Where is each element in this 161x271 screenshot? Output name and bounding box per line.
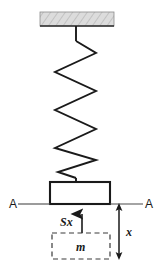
displacement-dimension-line — [116, 203, 123, 260]
ceiling-support-icon — [40, 12, 114, 26]
displacement-label: x — [125, 225, 132, 239]
mass-label: m — [76, 240, 85, 254]
spring-mass-diagram: A A Sx m x — [0, 0, 161, 271]
spring-force-label: Sx — [60, 215, 73, 229]
figure-root: A A Sx m x — [0, 0, 161, 271]
coil-spring-icon — [55, 26, 96, 183]
section-marker-right-label: A — [145, 197, 153, 211]
mass-block — [50, 182, 110, 204]
section-marker-left-label: A — [9, 197, 17, 211]
